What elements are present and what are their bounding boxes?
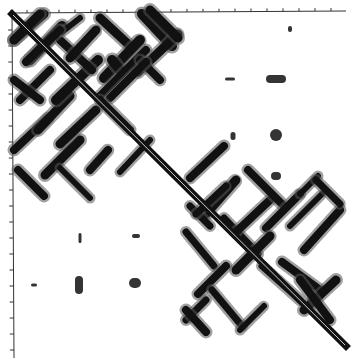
contact-patterns	[14, 10, 340, 332]
left-axis-line	[12, 12, 14, 358]
interface-cluster	[270, 129, 282, 141]
interface-cluster	[129, 278, 141, 288]
interface-cluster	[288, 26, 292, 32]
interface-cluster	[79, 233, 82, 243]
interface-cluster	[266, 75, 286, 83]
interface-cluster	[271, 172, 281, 180]
contact-strand	[304, 210, 340, 250]
interface-cluster	[231, 132, 236, 140]
interface-cluster	[225, 78, 235, 81]
interface-cluster	[31, 284, 37, 287]
interface-cluster	[75, 276, 83, 294]
contact-map-plot	[0, 0, 358, 363]
contact-strand	[190, 146, 224, 178]
interface-cluster	[132, 234, 140, 238]
main-diagonal	[12, 14, 346, 346]
contact-strand	[240, 306, 264, 330]
contact-strand	[186, 232, 214, 266]
diagonal-center-line	[13, 15, 345, 345]
contact-map-figure	[0, 0, 358, 363]
top-axis-line	[11, 11, 346, 13]
contact-strand	[212, 290, 242, 326]
